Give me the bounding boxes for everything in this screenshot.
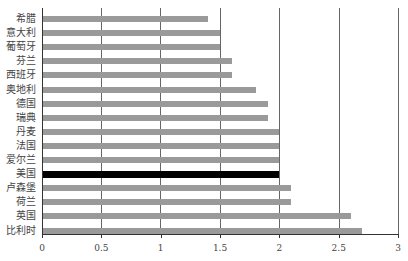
bar — [42, 58, 232, 64]
category-label: 葡萄牙 — [6, 42, 36, 52]
category-label: 法国 — [16, 141, 36, 151]
category-label: 奥地利 — [6, 85, 36, 95]
category-label: 英国 — [16, 211, 36, 221]
x-tick-label: 2.5 — [332, 243, 346, 253]
bar — [42, 129, 279, 135]
bar — [42, 72, 232, 78]
x-tick — [101, 234, 102, 238]
category-label: 美国 — [16, 169, 36, 179]
bar — [42, 44, 220, 50]
x-tick-label: 0 — [39, 243, 45, 253]
x-tick — [339, 234, 340, 238]
bar — [42, 115, 268, 121]
bar — [42, 199, 291, 205]
bar — [42, 213, 351, 219]
x-tick-label: 1 — [158, 243, 164, 253]
gridline-2-5 — [339, 8, 340, 234]
category-label: 荷兰 — [16, 197, 36, 207]
category-label: 爱尔兰 — [6, 155, 36, 165]
category-label: 德国 — [16, 99, 36, 109]
gridline-3 — [398, 8, 399, 234]
category-label: 芬兰 — [16, 56, 36, 66]
bar — [42, 16, 208, 22]
x-tick — [398, 234, 399, 238]
x-tick-label: 1.5 — [213, 243, 227, 253]
bar — [42, 101, 268, 107]
category-label: 丹麦 — [16, 127, 36, 137]
category-label: 希腊 — [16, 14, 36, 24]
category-label: 卢森堡 — [6, 183, 36, 193]
bar — [42, 157, 279, 163]
bar — [42, 143, 279, 149]
y-axis — [42, 8, 43, 236]
category-label: 意大利 — [6, 28, 36, 38]
bar — [42, 171, 279, 178]
bar — [42, 30, 220, 36]
category-label: 瑞典 — [16, 113, 36, 123]
x-tick — [279, 234, 280, 238]
x-tick — [161, 234, 162, 238]
horizontal-bar-chart: 希腊意大利葡萄牙芬兰西班牙奥地利德国瑞典丹麦法国爱尔兰美国卢森堡荷兰英国比利时 … — [0, 0, 408, 261]
x-tick-label: 0.5 — [94, 243, 108, 253]
category-label: 比利时 — [6, 226, 36, 236]
bar — [42, 185, 291, 191]
bar — [42, 228, 362, 234]
x-tick — [220, 234, 221, 238]
x-tick-label: 3 — [395, 243, 401, 253]
category-label: 西班牙 — [6, 70, 36, 80]
x-tick — [42, 234, 43, 238]
x-tick-label: 2 — [277, 243, 283, 253]
bar — [42, 87, 256, 93]
